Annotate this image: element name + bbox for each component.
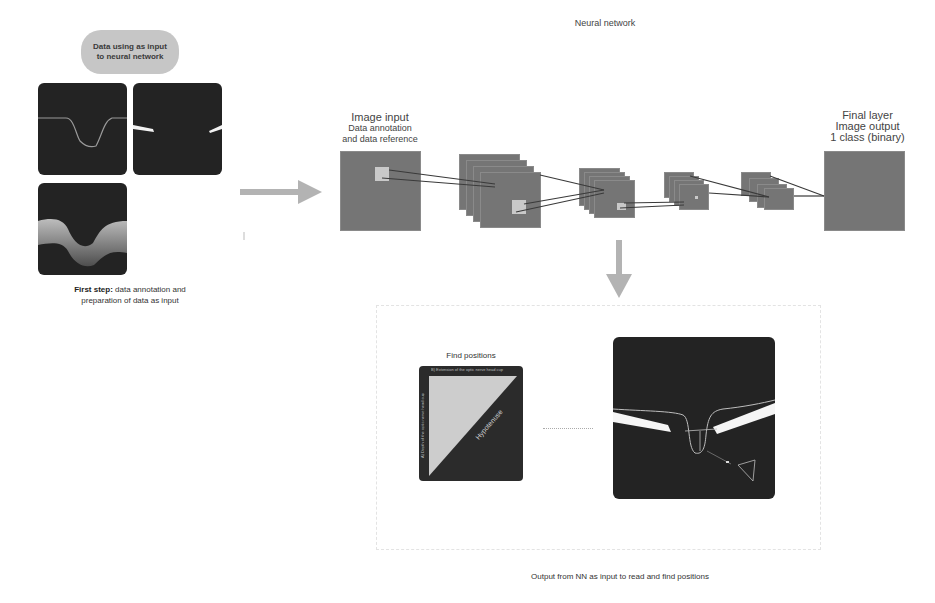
triangle-top-label: B) Extension of the optic nerve head cup	[431, 367, 523, 372]
triangle-diagram: B) Extension of the optic nerve head cup…	[419, 366, 523, 481]
segmentation-output-graphic	[613, 337, 775, 499]
right-triangle-graphic	[419, 366, 523, 481]
down-arrow-icon	[606, 240, 632, 298]
segmentation-output-image	[613, 337, 775, 499]
find-positions-title: Find positions	[419, 351, 523, 360]
output-caption: Output from NN as input to read and find…	[450, 572, 790, 581]
dotted-connector	[543, 428, 593, 429]
layer-connections	[0, 0, 935, 300]
triangle-side-label: A) Depth of the optic nerve head cup	[420, 376, 425, 476]
